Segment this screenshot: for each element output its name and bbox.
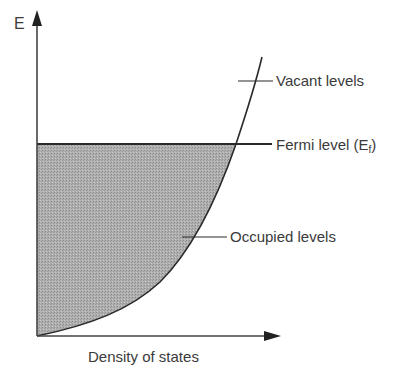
occupied-region (37, 144, 236, 336)
occupied-levels-label: Occupied levels (230, 228, 336, 245)
x-axis-arrow-icon (264, 331, 281, 341)
vacant-levels-label: Vacant levels (276, 72, 364, 89)
y-axis-label: E (14, 15, 25, 32)
fermi-close-paren: ) (371, 136, 376, 153)
y-axis-arrow-icon (32, 10, 42, 26)
fermi-level-label: Fermi level (Ef) (276, 136, 376, 155)
fermi-level-text: Fermi level (E (276, 136, 369, 153)
density-of-states-diagram: E Vacant levels Fermi level (Ef) Occupie… (0, 0, 418, 378)
x-axis-label: Density of states (88, 348, 199, 365)
